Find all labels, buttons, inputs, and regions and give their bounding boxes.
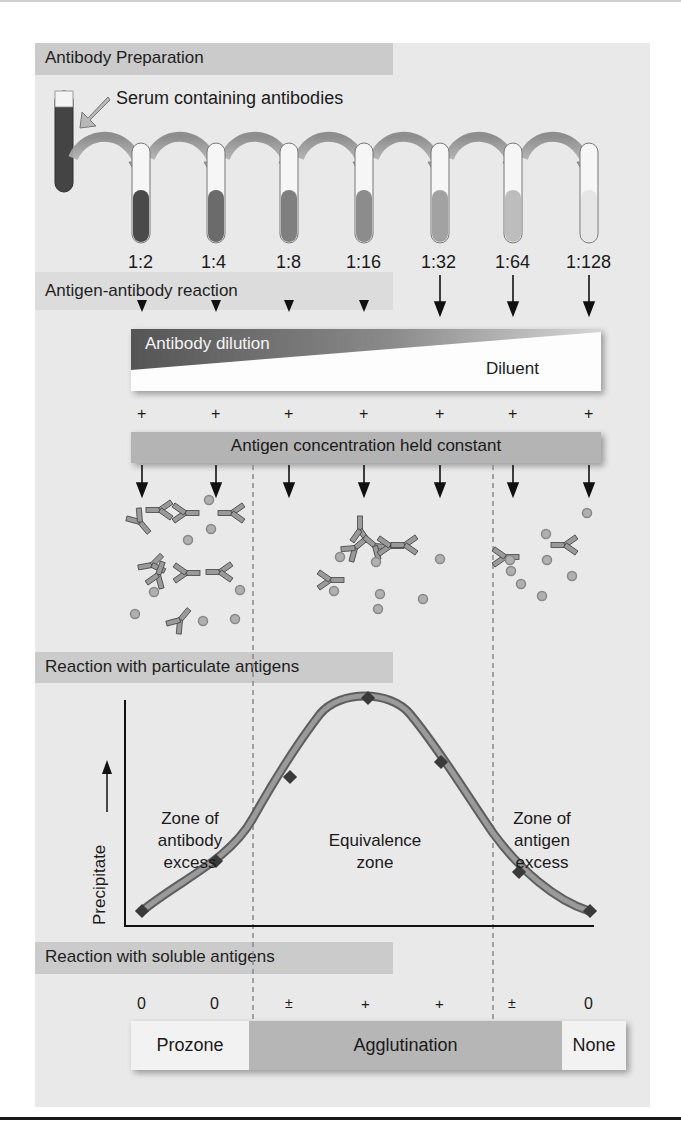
soluble-result: + — [361, 995, 370, 1012]
none-label: None — [562, 1021, 626, 1070]
small-arrowheads — [137, 300, 369, 312]
soluble-result: 0 — [210, 995, 219, 1013]
soluble-result: 0 — [137, 995, 146, 1013]
dilution-label: 1:4 — [201, 252, 226, 273]
plus-sign: + — [359, 405, 368, 423]
diagram-graphics — [0, 0, 681, 1131]
dilution-label: 1:2 — [128, 252, 153, 273]
soluble-result: ± — [285, 995, 293, 1011]
plus-sign: + — [137, 405, 146, 423]
precipitation-curve — [142, 696, 589, 911]
y-axis-label: Precipitate — [90, 845, 110, 925]
immune-complexes — [124, 496, 592, 637]
long-arrows — [435, 275, 594, 315]
dilution-label: 1:32 — [421, 252, 456, 273]
plus-sign: + — [435, 405, 444, 423]
dilution-label: 1:128 — [566, 252, 611, 273]
bottom-rule — [0, 1117, 681, 1120]
dilution-label: 1:8 — [276, 252, 301, 273]
plus-sign: + — [584, 405, 593, 423]
diluent-label: Diluent — [486, 359, 539, 379]
agglutination-label: Agglutination — [249, 1021, 562, 1070]
curve-data-points — [135, 691, 597, 918]
antibody-dilution-label: Antibody dilution — [145, 334, 270, 354]
serum-label: Serum containing antibodies — [116, 88, 343, 109]
soluble-result: ± — [508, 995, 516, 1011]
reaction-arrows — [137, 465, 594, 496]
plus-sign: + — [508, 405, 517, 423]
prozone-label: Prozone — [131, 1021, 249, 1070]
precipitate-arrow-icon — [102, 760, 112, 812]
soluble-result: 0 — [584, 995, 593, 1013]
zone-antibody-excess: Zone of antibody excess — [150, 808, 230, 874]
serum-arrow-icon — [80, 97, 110, 128]
zone-equivalence: Equivalence zone — [315, 830, 435, 874]
source-tube — [55, 91, 73, 192]
plus-sign: + — [211, 405, 220, 423]
antigen-constant-label: Antigen concentration held constant — [131, 436, 601, 456]
dilution-label: 1:64 — [495, 252, 530, 273]
plus-sign: + — [284, 405, 293, 423]
dilution-label: 1:16 — [346, 252, 381, 273]
soluble-result: + — [435, 995, 444, 1012]
zone-antigen-excess: Zone of antigen excess — [502, 808, 582, 874]
